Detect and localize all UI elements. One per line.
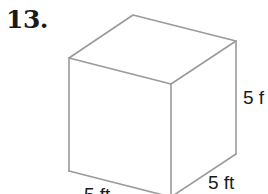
cube-diagram — [0, 0, 268, 194]
height-dimension-label: 5 f — [243, 88, 264, 108]
depth-dimension-label: 5 ft — [208, 173, 234, 193]
width-dimension-label: 5 ft — [84, 185, 110, 194]
cube-top-face — [69, 15, 236, 84]
